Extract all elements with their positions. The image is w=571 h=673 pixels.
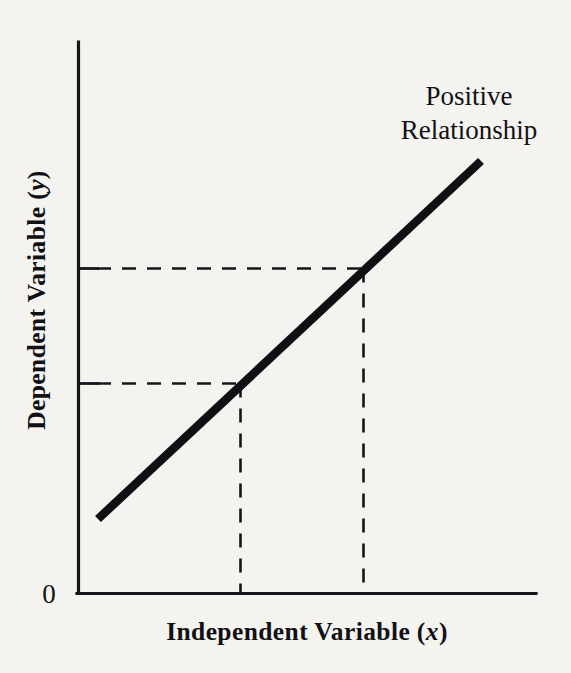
x-axis-label-suffix: ) (439, 617, 448, 646)
y-axis-label-symbol: y (22, 179, 51, 194)
x-axis-label: Independent Variable (x) (166, 617, 448, 646)
y-axis-label: Dependent Variable (y) (22, 170, 51, 430)
y-axis-label-prefix: Dependent Variable ( (22, 191, 51, 430)
figure-canvas: 0 Positive Relationship Independent Vari… (0, 0, 571, 673)
y-axis-label-suffix: ) (22, 170, 51, 179)
x-axis-label-symbol: x (425, 617, 439, 646)
annotation-line-2: Relationship (401, 115, 538, 145)
positive-relationship-chart: 0 Positive Relationship Independent Vari… (0, 0, 571, 673)
x-axis-label-prefix: Independent Variable ( (166, 617, 426, 646)
data-line-positive-relationship (98, 161, 481, 519)
origin-label: 0 (42, 579, 56, 609)
annotation-line-1: Positive (425, 81, 512, 111)
